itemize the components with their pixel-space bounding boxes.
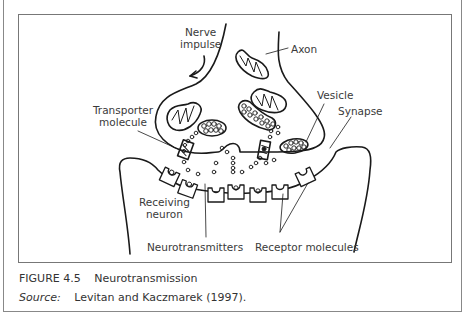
label-nerve: Nerve [180,26,221,38]
transporter-molecule-right [258,140,271,159]
label-synapse: Synapse [338,105,383,117]
leader-neurotransmitters [205,184,206,237]
receptor-4 [228,185,244,199]
figure-caption: FIGURE 4.5 Neurotransmission [19,272,197,285]
label-receiving: Receiving [139,196,190,208]
vesicle-cluster-3 [279,137,309,155]
label-neuron: neuron [139,208,190,220]
figure-title: Neurotransmission [94,272,197,285]
label-nerve-impulse: Nerve impulse [180,26,221,50]
nerve-impulse-arrow [190,56,204,76]
label-impulse: impulse [180,38,221,50]
label-transporter-molecule: Transporter molecule [93,104,153,128]
source-text: Levitan and Kaczmarek (1997). [74,291,246,304]
label-neurotransmitters: Neurotransmitters [147,241,243,253]
receptor-3 [208,188,224,202]
source-label: Source: [19,291,61,304]
label-receptor-molecules: Receptor molecules [255,241,359,253]
label-molecule: molecule [93,116,153,128]
mitochondrion-2 [167,103,201,131]
receptor-5 [250,188,266,202]
leader-synapse [330,117,351,148]
label-axon: Axon [291,43,317,55]
label-transporter: Transporter [93,104,153,116]
leader-receptor-1 [280,194,283,232]
figure-source: Source: Levitan and Kaczmarek (1997). [19,291,246,304]
label-receiving-neuron: Receiving neuron [139,196,190,220]
receptor-6 [272,185,288,199]
vesicle-cluster-1 [198,120,226,136]
figure-number: FIGURE 4.5 [19,272,81,285]
mitochondrion-3 [251,89,286,113]
mitochondrion-1 [236,50,268,79]
leader-axon [266,48,288,54]
label-vesicle: Vesicle [317,89,353,101]
receptor-7 [295,167,315,186]
